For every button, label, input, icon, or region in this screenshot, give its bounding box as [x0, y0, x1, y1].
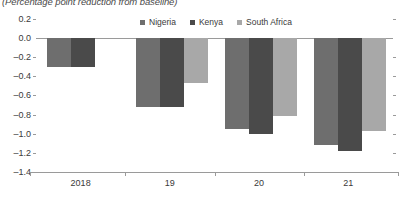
y-axis-tick — [33, 76, 36, 77]
x-axis-end-tick — [398, 172, 399, 176]
legend-item-kenya[interactable]: Kenya — [190, 17, 223, 27]
bar — [362, 38, 386, 131]
y-axis-tick — [33, 115, 36, 116]
y-axis-tick — [33, 153, 36, 154]
x-axis-tick-label: 2018 — [71, 178, 91, 188]
legend-swatch-icon — [237, 20, 242, 25]
bar — [249, 38, 273, 134]
legend-swatch-icon — [190, 20, 195, 25]
y-axis-tick-right — [393, 95, 396, 96]
y-axis-tick-label: –0.4 — [1, 71, 31, 81]
x-axis-tick-label: 21 — [343, 178, 353, 188]
y-axis-tick-right — [393, 76, 396, 77]
bar — [314, 38, 338, 145]
x-axis-tick — [304, 172, 305, 176]
legend-item-south-africa[interactable]: South Africa — [237, 17, 292, 27]
legend-item-nigeria[interactable]: Nigeria — [140, 17, 176, 27]
y-axis-tick-right — [393, 134, 396, 135]
bar — [338, 38, 362, 151]
x-axis-tick-label: 20 — [254, 178, 264, 188]
chart-subtitle: (Percentage point reduction from baselin… — [2, 0, 177, 7]
x-axis-tick-label: 19 — [165, 178, 175, 188]
legend-label: South Africa — [246, 17, 292, 27]
bar — [225, 38, 249, 129]
y-axis-tick — [33, 19, 36, 20]
y-axis-tick-right — [393, 172, 396, 173]
bar — [184, 38, 208, 83]
x-axis-tick — [215, 172, 216, 176]
y-axis-tick-label: –1.4 — [1, 167, 31, 177]
bar — [273, 38, 297, 116]
legend-swatch-icon — [140, 20, 145, 25]
x-axis-tick — [125, 172, 126, 176]
y-axis-tick — [33, 57, 36, 58]
y-axis-tick-label: 0.2 — [1, 14, 31, 24]
legend-label: Nigeria — [149, 17, 176, 27]
y-axis-tick-label: –1.2 — [1, 148, 31, 158]
y-axis-tick — [33, 95, 36, 96]
y-axis-tick-right — [393, 153, 396, 154]
plot-area: 0.20.0–0.2–0.4–0.6–0.8–1.0–1.2–1.4201819… — [36, 38, 393, 172]
bar — [136, 38, 160, 107]
bar — [71, 38, 95, 67]
bar-chart: (Percentage point reduction from baselin… — [0, 0, 417, 201]
y-axis-tick-label: –0.8 — [1, 110, 31, 120]
y-axis-tick-label: –0.2 — [1, 52, 31, 62]
y-axis-tick — [33, 134, 36, 135]
y-axis-tick-label: 0.0 — [1, 33, 31, 43]
chart-legend: NigeriaKenyaSouth Africa — [140, 17, 292, 27]
legend-label: Kenya — [199, 17, 223, 27]
y-axis-tick — [33, 172, 36, 173]
y-axis-tick-right — [393, 57, 396, 58]
x-axis-end-tick — [30, 172, 31, 176]
y-axis-tick-right — [393, 115, 396, 116]
y-axis-tick-label: –1.0 — [1, 129, 31, 139]
bar — [160, 38, 184, 107]
bar — [47, 38, 71, 67]
y-axis-tick-label: –0.6 — [1, 90, 31, 100]
y-axis-tick-right — [393, 19, 396, 20]
